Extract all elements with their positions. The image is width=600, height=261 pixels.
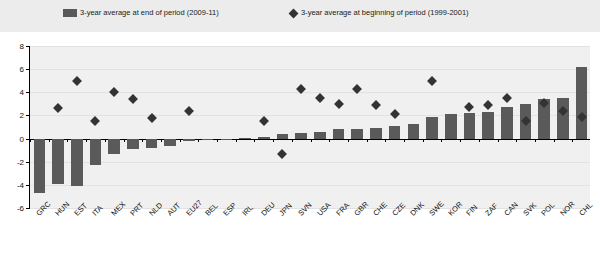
y-axis-tick-label: 8: [2, 42, 24, 51]
diamond-marker: [483, 100, 493, 110]
x-axis-tick: [329, 139, 330, 142]
diamond-marker: [315, 93, 325, 103]
x-axis-tick: [498, 139, 499, 142]
bar: [71, 139, 83, 186]
diamond-marker: [334, 99, 344, 109]
bar: [408, 124, 420, 139]
bar: [164, 139, 176, 146]
diamond-marker: [109, 87, 119, 97]
x-axis-tick: [385, 139, 386, 142]
x-axis-tick: [236, 139, 237, 142]
bar: [34, 139, 46, 193]
bar: [426, 117, 438, 139]
bar: [351, 129, 363, 138]
x-axis-tick: [292, 139, 293, 142]
y-axis-tick-label: -2: [2, 158, 24, 167]
bar: [557, 98, 569, 139]
x-axis-tick: [86, 139, 87, 142]
chart-legend: 3-year average at end of period (2009-11…: [0, 0, 600, 32]
y-axis-tick: [26, 185, 30, 186]
x-axis-tick: [441, 139, 442, 142]
bar: [277, 134, 289, 139]
gridline: [30, 69, 590, 70]
x-axis-tick: [460, 139, 461, 142]
diamond-marker: [147, 113, 157, 123]
diamond-marker: [53, 104, 63, 114]
y-axis-tick-label: -4: [2, 181, 24, 190]
x-axis-tick: [198, 139, 199, 142]
legend-entry-bar: 3-year average at end of period (2009-11…: [63, 8, 219, 18]
bar: [221, 139, 233, 140]
x-axis-tick: [311, 139, 312, 142]
diamond-marker: [259, 116, 269, 126]
bar: [127, 139, 139, 149]
x-axis-tick: [217, 139, 218, 142]
x-axis-tick: [49, 139, 50, 142]
bar: [445, 114, 457, 138]
x-axis-labels: GRCHUNESTITAMEXPRTNLDAUTEU27BELESPIRLDEU…: [0, 208, 600, 261]
x-axis-tick: [535, 139, 536, 142]
bar: [314, 132, 326, 139]
diamond-marker: [184, 106, 194, 116]
x-axis-tick: [273, 139, 274, 142]
x-axis-tick: [572, 139, 573, 142]
y-axis-tick-label: 4: [2, 88, 24, 97]
legend-diamond-swatch-icon: [289, 8, 299, 18]
diamond-marker: [371, 100, 381, 110]
bar: [389, 126, 401, 139]
x-axis-tick: [404, 139, 405, 142]
y-axis-tick-label: 2: [2, 111, 24, 120]
x-axis-tick: [516, 139, 517, 142]
y-axis-tick: [26, 46, 30, 47]
x-axis-tick: [161, 139, 162, 142]
chart-figure: 3-year average at end of period (2009-11…: [0, 0, 600, 261]
bar: [576, 67, 588, 139]
plot-area: [29, 46, 590, 208]
diamond-marker: [464, 102, 474, 112]
diamond-marker: [277, 149, 287, 159]
diamond-marker: [90, 116, 100, 126]
y-axis-tick: [26, 92, 30, 93]
x-axis-tick: [479, 139, 480, 142]
x-axis-tick: [30, 139, 31, 142]
x-axis-tick: [348, 139, 349, 142]
x-axis-tick: [554, 139, 555, 142]
diamond-marker: [390, 109, 400, 119]
y-axis-tick: [26, 115, 30, 116]
bar: [183, 139, 195, 141]
diamond-marker: [427, 76, 437, 86]
y-axis-tick: [26, 69, 30, 70]
diamond-marker: [128, 94, 138, 104]
bar: [146, 139, 158, 148]
diamond-marker: [72, 76, 82, 86]
x-axis-tick: [254, 139, 255, 142]
bar: [202, 139, 214, 141]
x-axis-tick: [142, 139, 143, 142]
x-axis-tick: [67, 139, 68, 142]
bar: [370, 128, 382, 138]
bar: [501, 107, 513, 138]
bar: [90, 139, 102, 166]
gridline: [30, 185, 590, 186]
legend-bar-swatch-icon: [63, 9, 77, 17]
y-axis-tick: [26, 162, 30, 163]
gridline: [30, 162, 590, 163]
bar: [482, 112, 494, 139]
bar: [108, 139, 120, 154]
bar: [239, 138, 251, 139]
bar: [333, 129, 345, 138]
legend-bar-label: 3-year average at end of period (2009-11…: [80, 8, 219, 18]
y-axis-tick-label: 0: [2, 135, 24, 144]
legend-entry-diamond: 3-year average at beginning of period (1…: [290, 8, 469, 18]
x-axis-tick: [124, 139, 125, 142]
y-axis-tick-label: 6: [2, 65, 24, 74]
bar: [295, 133, 307, 139]
diamond-marker: [502, 93, 512, 103]
bar: [52, 139, 64, 184]
legend-diamond-label: 3-year average at beginning of period (1…: [301, 8, 469, 18]
bar: [464, 113, 476, 138]
x-axis-tick: [423, 139, 424, 142]
gridline: [30, 46, 590, 47]
x-axis-tick: [105, 139, 106, 142]
x-axis-tick: [180, 139, 181, 142]
